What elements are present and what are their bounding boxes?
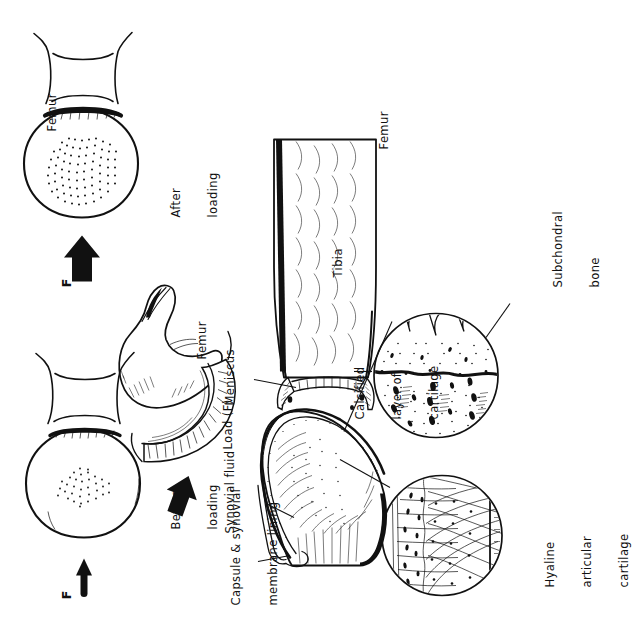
femur-label-knee: Femur — [46, 93, 58, 131]
caption-after-line2: loading — [207, 172, 219, 217]
calcified-layer-label: Calcified layer of cartilage — [330, 365, 464, 419]
load-f-label: Load (F) — [222, 399, 234, 449]
force-label-before: F — [60, 590, 74, 599]
calcified-label-line2: layer of — [391, 365, 403, 419]
calcified-label-line1: Calcified — [354, 365, 366, 419]
calcified-label-line3: cartilage — [428, 365, 440, 419]
force-arrow-after — [64, 235, 100, 281]
hyaline-label-line2: articular — [581, 533, 593, 587]
inset-hyaline-cartilage — [378, 471, 506, 599]
subchondral-label-line2: bone — [589, 211, 601, 288]
subchondral-label-line1: Subchondral — [552, 211, 564, 288]
caption-after-loading: After loading — [146, 172, 244, 217]
capsule-label-line2: membrane lining — [267, 488, 279, 605]
femur-label-hip: Femur — [196, 321, 208, 359]
caption-after-line1: After — [170, 172, 182, 217]
meniscus-label: Meniscus — [224, 349, 236, 405]
contact-stipple-after — [47, 137, 117, 205]
synovial-fluid-label: Synovial fluid — [224, 450, 236, 533]
hyaline-label-line3: cartilage — [618, 533, 630, 587]
hyaline-cartilage-label: Hyaline articular cartilage — [520, 533, 636, 587]
hyaline-label-line1: Hyaline — [544, 533, 556, 587]
force-arrow-before — [76, 558, 92, 593]
contact-stipple-before — [57, 467, 110, 507]
subchondral-bone-label: Subchondral bone — [528, 211, 626, 288]
capsule-synovial-label: Capsule & synovial membrane lining — [206, 488, 304, 605]
force-label-after: F — [60, 278, 74, 287]
femur-label-bottom: Femur — [378, 111, 390, 149]
